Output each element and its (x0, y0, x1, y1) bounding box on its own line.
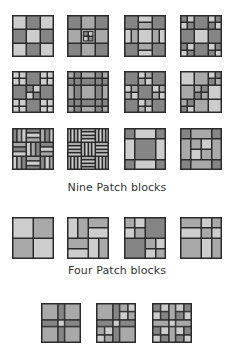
quilt-block-four-patch-simple (12, 217, 54, 259)
quilt-patch (146, 239, 156, 249)
quilt-patch (65, 327, 81, 343)
quilt-patch (139, 44, 153, 51)
quilt-patch (153, 16, 167, 30)
quilt-patch (195, 86, 202, 93)
quilt-patch (105, 327, 113, 335)
quilt-patch (99, 157, 102, 171)
quilt-patch (41, 152, 55, 156)
quilt-patch (45, 157, 49, 171)
quilt-patch (82, 100, 96, 107)
quilt-patch (153, 30, 160, 44)
quilt-patch (153, 86, 160, 93)
quilt-patch (34, 93, 41, 100)
quilt-patch (27, 161, 41, 165)
quilt-patch (181, 228, 202, 238)
quilt-patch (135, 139, 156, 160)
quilt-patch (125, 139, 135, 160)
quilt-patch (82, 160, 96, 163)
quilt-patch (31, 143, 35, 157)
quilt-patch (34, 239, 55, 260)
quilt-patch (176, 312, 184, 320)
quilt-patch (153, 100, 167, 114)
quilt-patch (188, 44, 195, 51)
quilt-patch (161, 327, 169, 335)
quilt-patch (209, 44, 216, 51)
quilt-patch (125, 239, 146, 260)
quilt-patch (120, 304, 128, 312)
quilt-patch (161, 304, 169, 312)
quilt-patch (20, 79, 27, 86)
quilt-patch (132, 86, 139, 93)
quilt-patch (27, 100, 41, 114)
quilt-patch (99, 129, 102, 143)
quilt-patch (135, 218, 145, 228)
quilt-patch (17, 129, 21, 143)
quilt-patch (169, 320, 175, 326)
quilt-block-nine-patch-stepping (180, 71, 222, 113)
quilt-patch (202, 150, 212, 160)
quilt-block-four-patch-strips (180, 217, 222, 259)
quilt-patch (176, 304, 184, 312)
quilt-patch (191, 129, 212, 139)
quilt-patch (82, 143, 85, 157)
quilt-patch (96, 86, 103, 100)
quilt-block-nine-patch-rail-fence (12, 128, 54, 170)
quilt-patch (146, 79, 153, 86)
quilt-patch (41, 129, 45, 143)
quilt-patch (181, 139, 191, 160)
quilt-patch (146, 218, 167, 239)
quilt-patch (27, 72, 41, 86)
quilt-patch (191, 150, 201, 160)
quilt-patch (34, 218, 55, 239)
quilt-patch (68, 239, 89, 249)
quilt-patch (41, 157, 45, 171)
quilt-patch (89, 218, 110, 228)
quilt-patch (36, 143, 40, 157)
quilt-patch (34, 86, 41, 93)
quilt-block-sashed-fourpatch-corners (96, 303, 136, 343)
quilt-block-nine-patch-double-center (67, 15, 109, 57)
quilt-patch (13, 143, 27, 147)
quilt-patch (78, 129, 81, 143)
quilt-patch (58, 320, 64, 326)
quilt-patch (68, 150, 82, 153)
quilt-patch (96, 16, 110, 30)
quilt-patch (42, 327, 58, 343)
quilt-patch (96, 146, 110, 149)
quilt-patch (139, 79, 146, 86)
quilt-patch (202, 93, 209, 100)
quilt-patch (68, 30, 82, 44)
quilt-patch (13, 16, 27, 30)
quilt-patch (209, 23, 216, 30)
quilt-patch (181, 30, 195, 44)
quilt-patch (153, 44, 167, 58)
quilt-patch (27, 143, 31, 157)
quilt-patch (103, 129, 106, 143)
quilt-patch (82, 44, 96, 58)
quilt-patch (135, 129, 156, 139)
quilt-patch (169, 304, 175, 320)
quilt-patch (13, 218, 34, 239)
quilt-patch (153, 327, 161, 335)
quilt-patch (113, 327, 119, 343)
quilt-patch (120, 320, 136, 326)
quilt-patch (96, 157, 99, 171)
quilt-patch (68, 146, 82, 149)
quilt-patch (125, 100, 139, 114)
quilt-block-nine-patch-framed-fourpatch (180, 128, 222, 170)
quilt-block-nine-patch-plaid (67, 71, 109, 113)
quilt-patch (22, 129, 26, 143)
quilt-patch (209, 79, 216, 86)
quilt-patch (42, 304, 58, 320)
quilt-patch (125, 228, 135, 238)
quilt-patch (41, 147, 55, 151)
quilt-patch (181, 218, 202, 228)
quilt-patch (89, 32, 93, 36)
quilt-patch (68, 153, 82, 156)
quilt-patch (41, 79, 48, 86)
quilt-patch (113, 320, 119, 326)
quilt-patch (65, 304, 81, 320)
quilt-patch (42, 320, 58, 326)
quilt-patch (68, 143, 82, 146)
quilt-patch (27, 44, 41, 58)
